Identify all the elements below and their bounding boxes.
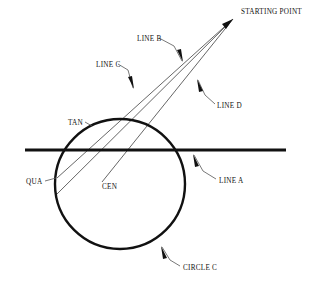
line-d-ray bbox=[102, 19, 233, 182]
line-b-leader bbox=[159, 38, 183, 62]
cen-label: CEN bbox=[102, 183, 118, 191]
line-b-label: LINE B bbox=[137, 35, 161, 43]
line-d-label: LINE D bbox=[217, 102, 242, 110]
tan-label: TAN bbox=[68, 119, 84, 127]
diagram-canvas: STARTING POINT LINE B LINE C LINE D LINE… bbox=[0, 0, 326, 289]
line-a-leader bbox=[193, 154, 216, 179]
line-c-ray bbox=[55, 19, 233, 196]
line-c-label: LINE C bbox=[96, 61, 120, 69]
line-d-leader bbox=[197, 79, 215, 104]
geometry-diagram: STARTING POINT LINE B LINE C LINE D LINE… bbox=[0, 0, 326, 289]
ray-group bbox=[55, 19, 233, 196]
tan-leader bbox=[85, 122, 92, 126]
circle-c-label: CIRCLE C bbox=[183, 264, 217, 272]
circle-c-shape bbox=[55, 119, 185, 249]
circle-c-leader bbox=[161, 246, 180, 266]
qua-label: QUA bbox=[26, 178, 43, 186]
starting-point-label: STARTING POINT bbox=[241, 8, 302, 16]
line-a-label: LINE A bbox=[219, 177, 244, 185]
